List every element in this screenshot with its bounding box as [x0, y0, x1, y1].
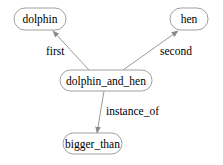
node-label-dolphin: dolphin — [22, 13, 57, 26]
node-bigger-than[interactable]: bigger_than — [63, 133, 122, 154]
node-dolphin[interactable]: dolphin — [14, 8, 66, 30]
edge-second: second — [123, 31, 192, 70]
graph-canvas: first second instance_of dolphin hen dol… — [0, 0, 223, 165]
node-label-hen: hen — [181, 13, 198, 25]
edge-label-first: first — [46, 45, 65, 57]
node-label-bigger-than: bigger_than — [65, 138, 120, 151]
edge-instance-of: instance_of — [97, 91, 159, 133]
node-dolphin-and-hen[interactable]: dolphin_and_hen — [60, 70, 152, 91]
edge-first: first — [46, 31, 89, 70]
edge-label-instance-of: instance_of — [106, 105, 159, 117]
node-label-dolphin-and-hen: dolphin_and_hen — [66, 75, 146, 88]
node-hen[interactable]: hen — [170, 8, 208, 30]
edge-label-second: second — [160, 45, 192, 57]
